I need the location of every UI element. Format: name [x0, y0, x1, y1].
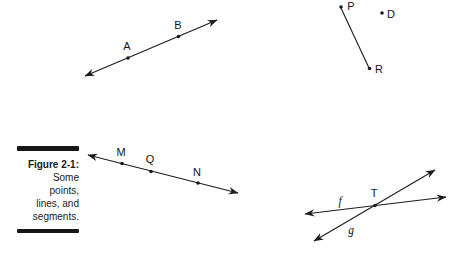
figure-caption-line: segments. — [14, 210, 79, 223]
caption-bottom-rule — [17, 229, 79, 234]
figure-caption: Figure 2-1: Some points, lines, and segm… — [14, 146, 79, 233]
point-label-T: T — [371, 187, 378, 199]
point-A — [126, 56, 130, 60]
figure-caption-text: Figure 2-1: Some points, lines, and segm… — [14, 151, 79, 229]
point-label-R: R — [375, 63, 383, 75]
figure-caption-line: lines, and — [14, 197, 79, 210]
figure-page: fgABPDRMQNT Figure 2-1: Some points, lin… — [0, 0, 474, 255]
line-MQN — [88, 155, 238, 193]
figure-caption-title: Figure 2-1: — [14, 158, 79, 171]
point-label-B: B — [174, 19, 181, 31]
line-label-g: g — [348, 224, 354, 237]
line-AB — [85, 20, 217, 76]
segment-PR — [341, 8, 369, 68]
point-T — [373, 204, 377, 208]
point-label-P: P — [347, 0, 354, 12]
point-label-D: D — [387, 8, 395, 20]
line-label-f: f — [338, 195, 343, 208]
point-Q — [149, 170, 153, 174]
point-M — [120, 162, 124, 166]
point-label-Q: Q — [146, 153, 155, 165]
point-D — [380, 11, 384, 15]
figure-caption-line: points, — [14, 184, 79, 197]
point-label-M: M — [116, 146, 125, 158]
figure-caption-line: Some — [14, 171, 79, 184]
point-P — [339, 5, 343, 9]
point-label-N: N — [193, 166, 201, 178]
point-label-A: A — [123, 40, 131, 52]
point-R — [368, 67, 372, 71]
point-N — [196, 181, 200, 185]
point-B — [177, 35, 181, 39]
